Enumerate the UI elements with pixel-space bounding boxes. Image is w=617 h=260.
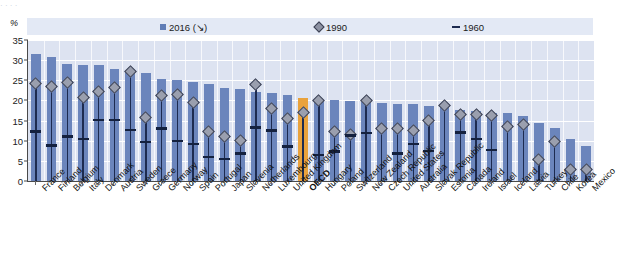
x-axis-tick-mark [161, 181, 162, 185]
x-axis-tick-mark [396, 181, 397, 185]
gridline-vertical [547, 40, 548, 181]
gridline-vertical [138, 40, 139, 181]
data-point-1960[interactable] [408, 143, 419, 145]
gridline-vertical [500, 40, 501, 181]
data-point-1960[interactable] [235, 152, 246, 154]
x-axis-tick-mark [239, 181, 240, 185]
gridline-vertical [170, 40, 171, 181]
marker-stem [177, 94, 178, 181]
x-axis-labels: FranceFinlandBelgiumItalyDenmarkAustriaS… [27, 186, 593, 260]
legend-entry-1960[interactable]: 1960 [452, 20, 484, 33]
data-point-1960[interactable] [125, 129, 136, 131]
data-point-1960[interactable] [109, 119, 120, 121]
gridline-vertical [217, 40, 218, 181]
gridline-vertical [453, 40, 454, 181]
gridline-vertical [91, 40, 92, 181]
data-point-1960[interactable] [46, 144, 57, 146]
legend-label-2016: 2016 (↘) [169, 22, 207, 33]
gridline-vertical [563, 40, 564, 181]
gridline-vertical [264, 40, 265, 181]
legend-entry-2016[interactable]: 2016 (↘) [160, 20, 207, 33]
gridline-vertical [358, 40, 359, 181]
square-marker-icon [160, 24, 166, 30]
gridline-vertical [75, 40, 76, 181]
data-point-1960[interactable] [282, 145, 293, 147]
gridline-vertical [578, 40, 579, 181]
x-axis-tick-mark [271, 181, 272, 185]
data-point-1960[interactable] [78, 138, 89, 140]
x-axis-tick-mark [554, 181, 555, 185]
data-point-1960[interactable] [62, 135, 73, 137]
x-axis-tick-mark [176, 181, 177, 185]
data-point-1960[interactable] [30, 130, 41, 132]
y-axis-tick-label: 10 [1, 135, 23, 146]
y-axis: % 35302520151050 [0, 18, 27, 188]
data-point-1960[interactable] [172, 140, 183, 142]
data-point-1960[interactable] [140, 141, 151, 143]
diamond-marker-icon [313, 22, 324, 33]
x-axis-tick-mark [412, 181, 413, 185]
data-point-1960[interactable] [345, 134, 356, 136]
x-axis-tick-mark [459, 181, 460, 185]
x-axis-tick-mark [113, 181, 114, 185]
data-point-1960[interactable] [250, 126, 261, 128]
data-point-1960[interactable] [156, 127, 167, 129]
data-point-1960[interactable] [188, 143, 199, 145]
x-axis-tick-mark [569, 181, 570, 185]
x-axis-tick-mark [208, 181, 209, 185]
x-axis-tick-mark [224, 181, 225, 185]
y-axis-tick-label: 20 [1, 95, 23, 106]
gridline-vertical [122, 40, 123, 181]
data-point-1960[interactable] [93, 119, 104, 121]
y-axis-tick-label: 35 [1, 35, 23, 46]
x-axis-tick-mark [381, 181, 382, 185]
data-point-1960[interactable] [203, 156, 214, 158]
gridline-vertical [342, 40, 343, 181]
x-axis-tick-mark [444, 181, 445, 185]
marker-stem [145, 118, 146, 181]
gridline-vertical [44, 40, 45, 181]
x-axis-tick-mark [255, 181, 256, 185]
cropped-title-strip: · · · · [0, 0, 607, 12]
x-axis-tick-mark [82, 181, 83, 185]
y-axis-unit-label: % [10, 18, 18, 28]
x-axis-tick-mark [98, 181, 99, 185]
data-point-1960[interactable] [266, 129, 277, 131]
x-axis-tick-mark [302, 181, 303, 185]
marker-stem [255, 84, 256, 181]
gridline-vertical [280, 40, 281, 181]
data-point-1960[interactable] [471, 138, 482, 140]
data-point-1960[interactable] [219, 158, 230, 160]
data-point-1960[interactable] [361, 132, 372, 134]
legend-label-1960: 1960 [463, 22, 484, 33]
y-axis-tick-label: 0 [1, 176, 23, 187]
x-axis-tick-mark [522, 181, 523, 185]
y-axis-tick-label: 25 [1, 75, 23, 86]
gridline-vertical [248, 40, 249, 181]
gridline-vertical [515, 40, 516, 181]
legend-label-1990: 1990 [326, 22, 347, 33]
data-point-1960[interactable] [455, 131, 466, 133]
x-axis-tick-mark [428, 181, 429, 185]
x-axis-tick-mark [192, 181, 193, 185]
x-axis-tick-mark [286, 181, 287, 185]
x-axis-tick-mark [334, 181, 335, 185]
gridline-vertical [484, 40, 485, 181]
x-axis-tick-mark [538, 181, 539, 185]
x-axis-tick-mark [318, 181, 319, 185]
gridline-vertical [59, 40, 60, 181]
dash-marker-icon [452, 26, 460, 28]
gridline-vertical [374, 40, 375, 181]
x-axis-tick-mark [51, 181, 52, 185]
x-axis-tick-mark [585, 181, 586, 185]
gridline-vertical [201, 40, 202, 181]
legend-entry-1990[interactable]: 1990 [315, 20, 347, 33]
gridline-vertical [107, 40, 108, 181]
x-axis-tick-mark [475, 181, 476, 185]
data-point-1960[interactable] [486, 149, 497, 151]
y-axis-tick-label: 15 [1, 115, 23, 126]
x-axis-tick-mark [507, 181, 508, 185]
marker-stem [67, 83, 68, 181]
chart-legend: 2016 (↘) 1990 1960 [27, 17, 593, 35]
